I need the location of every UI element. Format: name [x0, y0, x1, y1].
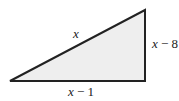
vertical-leg-offset: − 8: [158, 36, 178, 51]
triangle-diagram: x x − 8 x − 1: [0, 0, 179, 101]
horizontal-leg-label: x − 1: [67, 84, 94, 99]
horizontal-leg-offset: − 1: [74, 84, 94, 99]
hypotenuse-label: x: [72, 26, 79, 41]
vertical-leg-label: x − 8: [151, 36, 178, 51]
right-triangle: [10, 10, 145, 81]
hypotenuse-variable: x: [72, 26, 79, 41]
